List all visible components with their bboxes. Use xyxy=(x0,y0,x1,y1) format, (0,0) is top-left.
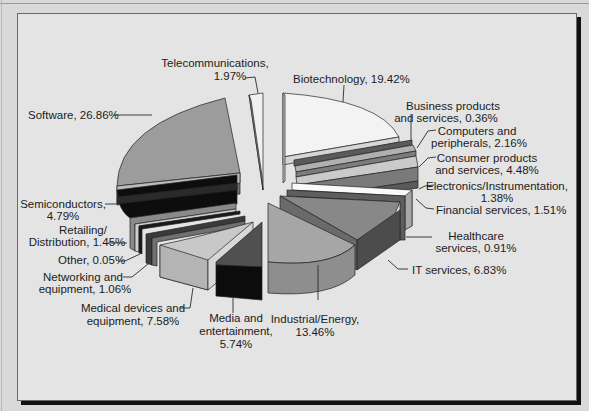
slice-telecom xyxy=(249,93,263,190)
leader-consumer xyxy=(419,157,436,167)
leader-networking xyxy=(123,264,148,277)
label-media: Media andentertainment,5.74% xyxy=(199,312,273,350)
label-biotech: Biotechnology, 19.42% xyxy=(293,73,410,85)
label-networking: Networking andequipment, 1.06% xyxy=(39,271,132,295)
label-it: IT services, 6.83% xyxy=(412,264,506,276)
label-consumer: Consumer productsand services, 4.48% xyxy=(435,152,539,176)
leader-it xyxy=(388,260,408,269)
label-business: Business productsand services, 0.36% xyxy=(394,100,500,124)
label-telecom: Telecommunications,1.97% xyxy=(161,57,268,82)
label-medical: Medical devices andequipment, 7.58% xyxy=(81,302,185,327)
label-retailing: Retailing/Distribution, 1.45% xyxy=(29,224,126,248)
label-industrial: Industrial/Energy,13.46% xyxy=(271,313,360,338)
label-semis: Semiconductors,4.79% xyxy=(20,198,106,222)
label-computers: Computers andperipherals, 2.16% xyxy=(431,125,527,149)
pie-chart: Telecommunications,1.97% Software, 26.86… xyxy=(0,0,589,411)
label-financial: Financial services, 1.51% xyxy=(436,204,566,216)
label-electronics: Electronics/Instrumentation,1.38% xyxy=(426,180,568,204)
label-software: Software, 26.86% xyxy=(28,109,119,121)
label-other: Other, 0.05% xyxy=(58,254,125,266)
leader-biotech xyxy=(343,85,344,102)
leader-telecom xyxy=(245,77,258,93)
label-healthcare: Healthcareservices, 0.91% xyxy=(435,230,516,254)
leader-financial xyxy=(416,199,434,209)
